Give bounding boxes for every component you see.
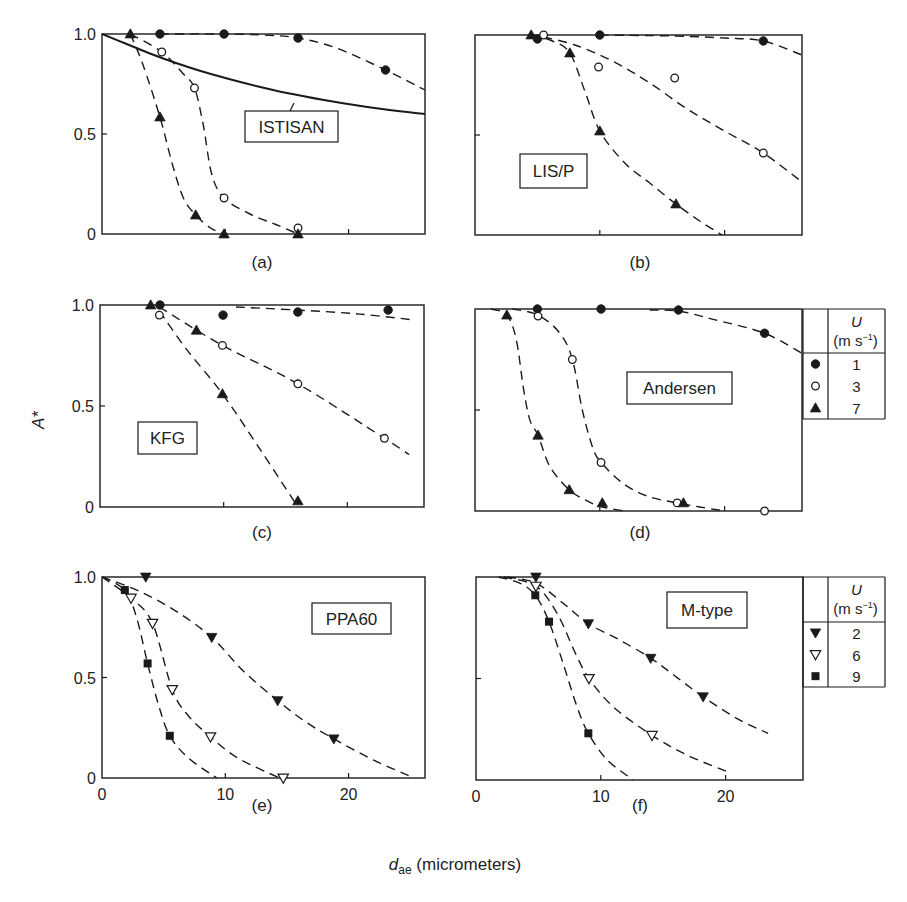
series-curve-dashed [160,34,425,90]
data-point-open-circle [597,459,605,467]
panel-d: Andersen(d) [475,305,802,542]
series-curve-dashed [159,311,298,507]
y-tick-label: 0 [85,499,94,516]
legend-unit-exponent: −1 [862,332,872,342]
figure: 00.51.0ISTISAN(a)LIS/P(b)00.51.0KFG(c)An… [0,0,907,902]
sampler-label: Andersen [643,379,716,398]
legend-value: 3 [852,378,860,395]
panel-label: (d) [630,523,651,542]
y-tick-label: 0 [87,770,96,787]
legend-unit-close: ) [873,600,878,617]
legend-marker-open-circle [812,382,820,390]
legend-U1: U(m s−1)137 [803,309,885,419]
legend-unit-base: (m s [833,600,862,617]
sampler-label: LIS/P [533,162,575,181]
data-point-open-down-triangle [205,733,215,742]
data-point-open-circle [219,342,227,350]
panel-frame [475,35,802,235]
data-point-open-circle [760,149,768,157]
data-point-filled-triangle [191,325,201,334]
sampler-label-box: Andersen [627,372,732,404]
legend-value: 9 [852,668,860,685]
curves [531,35,802,235]
sampler-label: KFG [150,429,185,448]
series-markers [121,586,174,740]
panel-c: 00.51.0KFG(c) [72,297,424,542]
legend-header-symbol: U [851,581,862,598]
data-point-filled-down-triangle [583,620,593,629]
data-point-filled-circle [294,34,302,42]
data-point-filled-triangle [597,498,607,507]
data-point-open-circle [156,311,164,319]
data-point-filled-circle [759,37,767,45]
legend-marker-filled-square [812,672,820,680]
x-tick-label: 10 [216,786,234,803]
data-point-filled-circle [384,306,392,314]
legend-marker-open-down-triangle [810,651,820,660]
sampler-label: M-type [681,601,733,620]
legend-unit-base: (m s [833,332,862,349]
data-point-open-down-triangle [167,686,177,695]
legend-marker-filled-triangle [810,403,820,412]
data-point-filled-circle [596,31,604,39]
series-curve-dashed [102,577,217,778]
sampler-label-leader [290,103,294,111]
series-curve-dashed [491,309,625,511]
data-point-filled-circle [156,301,164,309]
data-point-filled-circle [381,66,389,74]
data-point-filled-down-triangle [698,693,708,702]
series-curve-dashed [531,35,722,235]
series-markers [156,301,393,320]
data-point-filled-square [531,591,539,599]
data-point-open-circle [381,435,389,443]
data-point-open-circle [191,84,199,92]
panels: 00.51.0ISTISAN(a)LIS/P(b)00.51.0KFG(c)An… [72,26,885,815]
series-curve-dashed [499,577,634,780]
y-tick-label: 1.0 [74,26,96,43]
y-tick-label: 0.5 [74,670,96,687]
series-markers [540,31,767,157]
x-tick-label: 20 [340,786,358,803]
legend-value: 7 [852,400,860,417]
data-point-open-circle [534,312,542,320]
data-point-filled-triangle [155,112,165,121]
panel-f: 01020M-type(f) [472,573,803,815]
y-tick-label: 1.0 [72,297,94,314]
series-markers [502,310,689,507]
x-axis-title-subscript: ae [398,863,412,877]
data-point-filled-down-triangle [272,697,282,706]
series-markers [531,582,657,740]
x-axis-title-rest: (micrometers) [412,855,522,874]
panel-frame [100,305,424,507]
data-point-open-circle [540,31,548,39]
data-point-filled-down-triangle [646,654,656,663]
data-point-filled-circle [294,308,302,316]
panel-a: 00.51.0ISTISAN(a) [74,26,425,272]
curves [491,309,802,511]
data-point-open-circle [761,507,769,515]
sampler-label-box: KFG [138,422,197,454]
theory-curve-solid [102,34,425,114]
series-curve-dashed [650,310,802,353]
y-tick-label: 0.5 [74,126,96,143]
data-point-open-circle [569,356,577,364]
legend-marker-filled-circle [811,360,819,368]
data-point-open-circle [158,48,166,56]
x-tick-label: 20 [717,788,735,805]
data-point-open-down-triangle [647,731,657,740]
data-point-filled-circle [674,306,682,314]
sampler-label-box: PPA60 [312,603,391,634]
legend-unit-exponent: −1 [862,600,872,610]
data-point-filled-square [121,586,129,594]
series-curve-dashed [512,309,724,511]
data-point-filled-triangle [595,126,605,135]
panel-label: (b) [630,253,651,272]
series-markers [533,31,767,45]
data-point-open-circle [220,194,228,202]
series-markers [146,300,304,505]
series-curve-dashed [600,35,802,55]
data-point-filled-square [584,729,592,737]
x-tick-label: 0 [98,786,107,803]
series-markers [531,591,592,737]
y-axis-title: A* [29,410,48,430]
